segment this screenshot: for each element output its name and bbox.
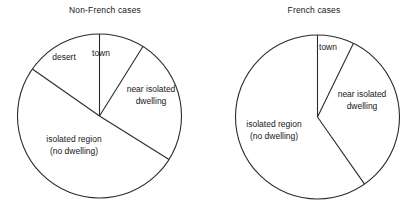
pie-slice-label-town-french: town (319, 42, 337, 54)
pie-slice-label-line-1: isolated region (46, 134, 101, 146)
pie-slice-label-line-2: dwelling (338, 100, 387, 112)
pie-slice-label-near-isolated-dwelling-french: near isolated dwelling (338, 89, 387, 112)
pie-slice-label-line-1: isolated region (246, 119, 301, 131)
pie-svg-french (209, 0, 419, 218)
pie-slice-label-near-isolated-dwelling-non-french: near isolated dwelling (127, 84, 176, 107)
pie-slice-label-desert-non-french: desert (52, 52, 76, 64)
pie-slice-label-line-2: dwelling (127, 95, 176, 107)
pie-divider-isolated-region-desert-non-french (32, 69, 99, 116)
pie-slice-label-line-1: near isolated (127, 84, 176, 96)
pie-svg-non-french (0, 0, 210, 218)
pie-slice-label-line-2: (no dwelling) (246, 130, 301, 142)
pie-slice-label-isolated-region-french: isolated region (no dwelling) (246, 119, 301, 142)
pie-divider-near-isolated-isolated-region-non-french (100, 116, 170, 159)
chart-panel-non-french: Non-French cases town desert near isolat… (0, 0, 210, 218)
pie-slice-label-town-non-french: town (92, 48, 110, 60)
pie-slice-label-isolated-region-non-french: isolated region (no dwelling) (46, 134, 101, 157)
pie-chart-figure: Non-French cases town desert near isolat… (0, 0, 419, 218)
pie-slice-label-line-1: near isolated (338, 89, 387, 101)
chart-panel-french: French cases town near isolated dwelling… (209, 0, 419, 218)
pie-divider-near-isolated-isolated-region-french (318, 117, 365, 184)
pie-slice-label-line-2: (no dwelling) (46, 145, 101, 157)
